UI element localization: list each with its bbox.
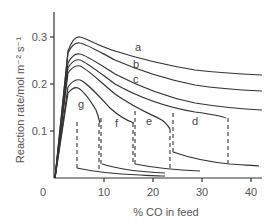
lower-branches: [77, 152, 259, 176]
curve-f-lower: [102, 164, 165, 173]
label-d: d: [192, 115, 198, 127]
hysteresis-jumps: [77, 108, 228, 172]
y-tick-label: 0.1: [32, 125, 47, 137]
x-tick-label: 20: [147, 186, 159, 198]
curve-c: [55, 54, 262, 178]
label-b: b: [133, 58, 139, 70]
origin-label: 0: [40, 186, 46, 198]
curve-d-upper: [55, 60, 226, 178]
x-tick-label: 30: [196, 186, 208, 198]
label-g: g: [78, 98, 84, 110]
x-axis-title: % CO in feed: [133, 206, 198, 218]
label-c: c: [133, 73, 139, 85]
label-e: e: [146, 115, 152, 127]
curve-e-lower: [135, 164, 200, 171]
y-axis-title: Reaction rate/mol m⁻² s⁻¹: [14, 37, 26, 164]
label-f: f: [115, 117, 119, 129]
label-a: a: [135, 41, 142, 53]
curve-d-lower: [173, 152, 259, 166]
y-tick-label: 0.2: [32, 78, 47, 90]
curves: [55, 37, 262, 178]
x-tick-label: 10: [98, 186, 110, 198]
y-tick-label: 0.3: [32, 31, 47, 43]
curve-f-upper: [55, 80, 134, 178]
reaction-rate-chart: 0.3 0.2 0.1 0 10 20 30 40 % CO in feed R…: [0, 0, 276, 222]
x-tick-label: 40: [245, 186, 257, 198]
